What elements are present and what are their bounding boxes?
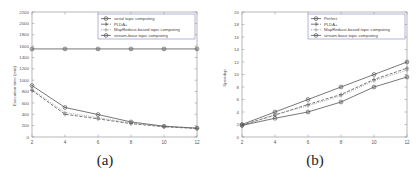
data-point-marker (307, 111, 308, 112)
data-point-marker (64, 107, 65, 108)
legend: PerfectPLDA+MapReduce-based topic comput… (308, 14, 405, 39)
series-line (30, 88, 199, 130)
y-tick-label: 1000 (19, 78, 29, 83)
data-point-marker (315, 35, 316, 36)
y-tick-label: 2200 (19, 10, 29, 15)
y-tick-label: 1400 (19, 55, 29, 60)
data-point-marker (196, 127, 197, 128)
data-point-marker (196, 48, 197, 49)
y-axis-label: Speedup (222, 69, 227, 87)
y-tick-label: 2000 (19, 21, 29, 26)
x-tick-label: 6 (307, 140, 310, 145)
series-path (32, 86, 197, 129)
y-tick-label: 8 (237, 85, 240, 90)
data-point-marker (340, 86, 341, 87)
y-tick-label: 0 (237, 135, 240, 140)
x-tick-label: 4 (274, 140, 277, 145)
data-point-marker (406, 76, 407, 77)
plot-area-b: 0246810121416182024681012SpeedupPerfectP… (210, 0, 420, 155)
series-path (32, 90, 197, 128)
data-point-marker (274, 118, 275, 119)
data-point-marker (64, 48, 65, 49)
svg-text:Execution time (min): Execution time (min) (12, 65, 17, 106)
data-point-marker (241, 125, 242, 126)
data-point-marker (163, 48, 164, 49)
y-tick-label: 400 (22, 112, 30, 117)
panel-b: 0246810121416182024681012SpeedupPerfectP… (210, 0, 420, 185)
data-point-marker (340, 101, 341, 102)
x-tick-label: 4 (64, 140, 67, 145)
series-path (242, 62, 407, 125)
x-tick-label: 6 (97, 140, 100, 145)
data-point-marker (163, 126, 164, 127)
data-point-marker (406, 61, 407, 62)
data-point-marker (31, 85, 32, 86)
x-tick-label: 12 (194, 140, 200, 145)
x-tick-label: 2 (241, 140, 244, 145)
y-tick-label: 20 (234, 10, 239, 15)
chart-svg-a: 0200400600800100012001400160018002000220… (0, 0, 210, 155)
svg-text:Speedup: Speedup (222, 69, 227, 87)
x-tick-label: 2 (31, 140, 34, 145)
y-axis-label: Execution time (min) (12, 65, 17, 106)
series-path (242, 68, 407, 125)
data-point-marker (373, 74, 374, 75)
plot-area-a: 0200400600800100012001400160018002000220… (0, 0, 210, 155)
data-point-marker (97, 114, 98, 115)
y-tick-label: 0 (27, 135, 30, 140)
series-line (240, 75, 409, 127)
data-point-marker (307, 99, 308, 100)
data-point-marker (31, 48, 32, 49)
y-tick-label: 1800 (19, 32, 29, 37)
x-tick-label: 8 (340, 140, 343, 145)
legend-label: MapReduce-based topic computing (114, 27, 181, 32)
legend-label: stream-base topic computing (324, 33, 378, 38)
legend-label: MapReduce-based topic computing (324, 27, 391, 32)
data-point-marker (105, 35, 106, 36)
figure-container: 0200400600800100012001400160018002000220… (0, 0, 420, 185)
series-path (242, 77, 407, 125)
data-point-marker (130, 48, 131, 49)
legend-label: PLDA+ (324, 22, 338, 27)
y-tick-label: 800 (22, 89, 30, 94)
x-tick-label: 10 (161, 140, 167, 145)
legend-label: stream-base topic computing (114, 33, 168, 38)
panel-a: 0200400600800100012001400160018002000220… (0, 0, 210, 185)
caption-b: (b) (210, 152, 420, 169)
legend-label: Perfect (324, 16, 338, 21)
y-tick-label: 6 (237, 97, 240, 102)
y-tick-label: 12 (234, 60, 239, 65)
series-line (30, 47, 199, 51)
y-tick-label: 200 (22, 123, 30, 128)
legend-label: PLDA+ (114, 22, 128, 27)
data-point-marker (274, 111, 275, 112)
x-tick-label: 10 (371, 140, 377, 145)
x-tick-label: 12 (404, 140, 410, 145)
chart-svg-b: 0246810121416182024681012SpeedupPerfectP… (210, 0, 420, 155)
series-line (30, 87, 199, 130)
data-point-marker (105, 18, 106, 19)
data-point-marker (130, 121, 131, 122)
data-point-marker (373, 86, 374, 87)
series-path (32, 89, 197, 128)
y-tick-label: 2 (237, 122, 240, 127)
x-tick-label: 8 (130, 140, 133, 145)
y-tick-label: 14 (234, 47, 239, 52)
data-point-marker (97, 48, 98, 49)
y-tick-label: 1200 (19, 66, 29, 71)
y-tick-label: 4 (237, 110, 240, 115)
y-tick-label: 1600 (19, 44, 29, 49)
y-tick-label: 600 (22, 101, 30, 106)
data-point-marker (315, 18, 316, 19)
y-tick-label: 16 (234, 35, 239, 40)
legend: serial topic computingPLDA+MapReduce-bas… (98, 14, 195, 39)
caption-a: (a) (0, 152, 210, 169)
y-tick-label: 18 (234, 22, 239, 27)
y-tick-label: 10 (234, 72, 239, 77)
series-line (240, 68, 409, 128)
series-line (240, 60, 409, 126)
legend-label: serial topic computing (114, 16, 155, 21)
